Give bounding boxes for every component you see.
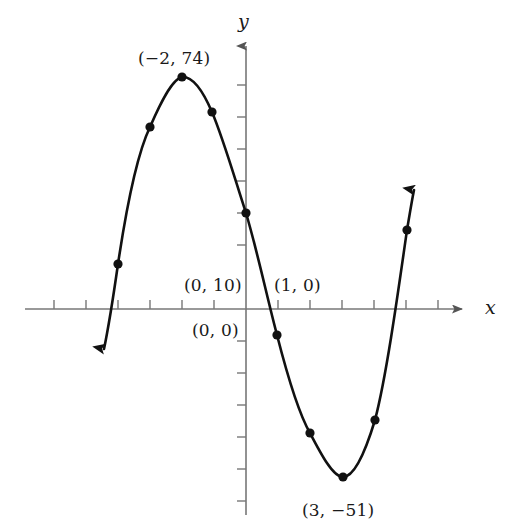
y-intercept-label: (0, 10) [184, 275, 242, 295]
cubic-function-graph: (−2, 74) (0, 10) (0, 0) (1, 0) (3, −51) … [0, 0, 521, 530]
root-label: (1, 0) [274, 275, 321, 295]
origin-label: (0, 0) [192, 320, 239, 340]
data-point-marker [207, 107, 216, 116]
data-point-marker [241, 208, 250, 217]
data-point-marker [145, 122, 154, 131]
plot-canvas [0, 0, 521, 530]
data-point-marker [305, 428, 314, 437]
data-point-marker [338, 472, 347, 481]
local-max-label: (−2, 74) [138, 48, 210, 68]
x-axis-label: x [485, 296, 496, 318]
data-point-marker [402, 225, 411, 234]
y-axis-label: y [238, 10, 249, 32]
cubic-curve [104, 77, 414, 477]
data-point-marker [177, 72, 186, 81]
data-point-marker [370, 415, 379, 424]
data-point-marker [272, 330, 281, 339]
data-point-marker [113, 259, 122, 268]
local-min-label: (3, −51) [302, 500, 374, 520]
